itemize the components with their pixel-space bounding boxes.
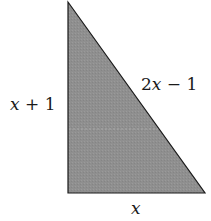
right-triangle (68, 2, 205, 193)
label-hypotenuse: 2x − 1 (141, 74, 197, 94)
label-left-side: x + 1 (10, 94, 55, 114)
label-base: x (131, 198, 141, 218)
triangle-diagram: x + 1 2x − 1 x (0, 0, 211, 221)
